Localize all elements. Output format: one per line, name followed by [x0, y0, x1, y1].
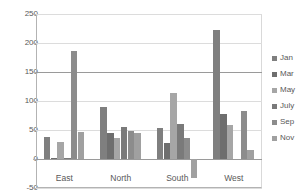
x-category-label-west: West — [206, 173, 263, 183]
bar-south-mar — [164, 143, 170, 159]
gridline--50 — [36, 188, 262, 189]
bar-east-jan — [44, 137, 50, 159]
bar-south-july — [177, 124, 183, 159]
bar-north-july — [121, 127, 127, 159]
bar-west-mar — [220, 114, 226, 159]
legend-swatch-may-icon — [272, 88, 277, 93]
bar-west-nov — [247, 150, 253, 159]
bar-west-sep — [241, 111, 247, 159]
legend-swatch-sep-icon — [272, 120, 277, 125]
legend-swatch-mar-icon — [272, 72, 277, 77]
legend-item-jan[interactable]: Jan — [272, 50, 306, 66]
legend-label: Sep — [280, 118, 294, 126]
bar-east-nov — [78, 132, 84, 159]
bar-east-july — [64, 158, 70, 159]
bar-west-may — [227, 125, 233, 159]
legend-label: Nov — [280, 134, 294, 142]
legend-label: Jan — [280, 54, 293, 62]
bars-layer — [36, 14, 262, 188]
legend-item-sep[interactable]: Sep — [272, 114, 306, 130]
bar-south-sep — [184, 138, 190, 159]
legend-item-may[interactable]: May — [272, 82, 306, 98]
bar-east-sep — [71, 51, 77, 159]
legend-item-july[interactable]: July — [272, 98, 306, 114]
bar-north-jan — [100, 107, 106, 159]
plot-area — [36, 14, 262, 188]
legend-label: July — [280, 102, 294, 110]
bar-north-may — [114, 138, 120, 159]
legend-label: May — [280, 86, 295, 94]
legend: JanMarMayJulySepNov — [272, 50, 306, 146]
x-category-label-south: South — [149, 173, 206, 183]
bar-south-jan — [157, 128, 163, 159]
x-category-label-east: East — [36, 173, 93, 183]
legend-label: Mar — [280, 70, 294, 78]
legend-swatch-jan-icon — [272, 56, 277, 61]
bar-north-nov — [134, 133, 140, 159]
bar-north-sep — [128, 131, 134, 159]
bar-north-mar — [107, 133, 113, 159]
bar-east-mar — [51, 158, 57, 159]
legend-item-mar[interactable]: Mar — [272, 66, 306, 82]
legend-swatch-nov-icon — [272, 136, 277, 141]
legend-swatch-july-icon — [272, 104, 277, 109]
legend-item-nov[interactable]: Nov — [272, 130, 306, 146]
bar-east-may — [57, 142, 63, 159]
bar-west-jan — [213, 30, 219, 159]
bar-chart: 250200150100500-50 EastNorthSouthWest Ja… — [0, 0, 306, 194]
bar-south-may — [170, 93, 176, 159]
x-category-label-north: North — [93, 173, 150, 183]
